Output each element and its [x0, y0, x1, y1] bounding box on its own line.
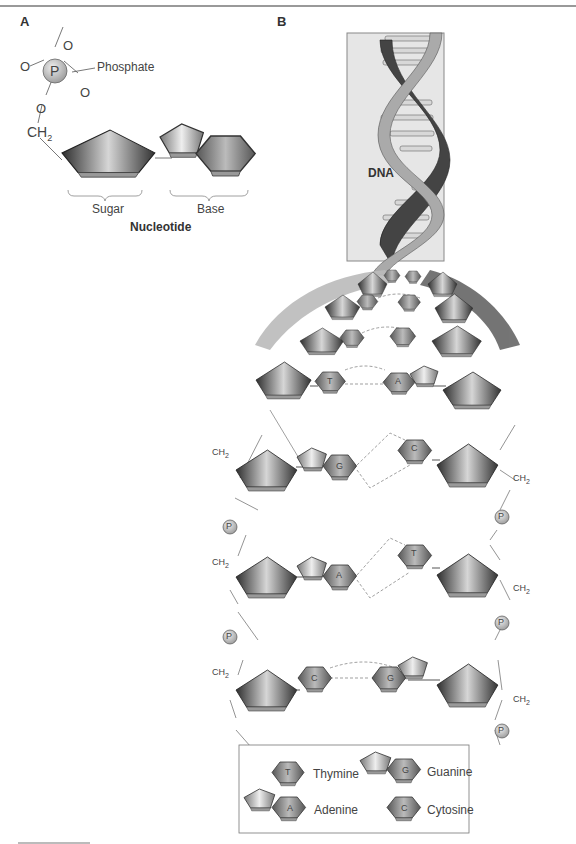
base-c: C [311, 673, 318, 683]
base-g: G [387, 673, 394, 683]
perspective-rungs [300, 270, 481, 357]
o-atom-right: O [80, 85, 90, 100]
panel-label-a: A [20, 14, 29, 29]
base-t: T [327, 376, 333, 386]
ch2-label: CH2 [212, 667, 229, 679]
o-atom-top: O [63, 38, 73, 53]
p-atom: P [498, 725, 504, 735]
ch2-label: CH2 [212, 447, 229, 459]
base-a: A [395, 376, 401, 386]
ch2-label: CH2 [513, 473, 530, 485]
base-a: A [336, 570, 342, 580]
phosphate-label: Phosphate [97, 60, 154, 74]
base-pair-t-a [256, 362, 501, 409]
base-pair-a-t [236, 538, 498, 598]
panel-label-b: B [277, 14, 286, 29]
legend-box [239, 745, 469, 833]
ch2-label: CH2 [212, 557, 229, 569]
p-atom: P [498, 511, 504, 521]
legend-thymine: Thymine [313, 767, 359, 781]
sugar-label: Sugar [92, 202, 124, 216]
legend-guanine: Guanine [427, 765, 472, 779]
legend-cytosine: Cytosine [427, 803, 474, 817]
dna-helix-box [347, 33, 450, 275]
p-atom: P [226, 521, 232, 531]
p-atom: P [226, 631, 232, 641]
legend-adenine: Adenine [314, 803, 358, 817]
ch2-label: CH2 [27, 124, 52, 143]
base-label: Base [197, 202, 224, 216]
base-g: G [336, 461, 343, 471]
o-atom-bottom: O [36, 101, 46, 116]
base-c: C [411, 443, 418, 453]
base-t: T [411, 548, 417, 558]
dna-structure-diagram [0, 0, 576, 844]
legend-code-a: A [287, 803, 293, 813]
right-backbone [490, 425, 515, 745]
nucleotide-figure [30, 27, 255, 201]
dna-label: DNA [368, 166, 394, 180]
base-pair-g-c [236, 433, 498, 491]
p-atom: P [498, 617, 504, 627]
legend-code-g: G [402, 765, 409, 775]
ch2-label: CH2 [513, 583, 530, 595]
legend-code-c: C [401, 803, 408, 813]
ch2-label: CH2 [513, 694, 530, 706]
nucleotide-title: Nucleotide [130, 220, 191, 234]
helix-ribbon-band [255, 270, 520, 350]
legend-code-t: T [285, 767, 291, 777]
o-atom-left: O [20, 59, 30, 74]
base-pair-c-g [236, 657, 498, 711]
p-atom: P [50, 63, 59, 79]
